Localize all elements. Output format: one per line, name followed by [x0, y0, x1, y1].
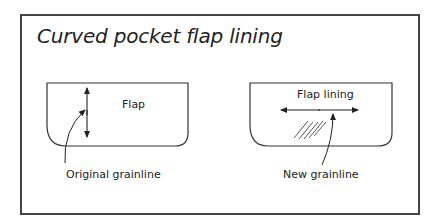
new-grainline-label: New grainline [283, 168, 359, 181]
flap-label: Flap [122, 98, 145, 111]
new-grainline-callout-line [322, 114, 333, 165]
pattern-drawing [0, 0, 438, 223]
original-grainline-callout-line [65, 110, 85, 163]
bias-hatch-icon [294, 121, 326, 139]
original-grainline-label: Original grainline [66, 168, 161, 181]
flap-lining-label: Flap lining [297, 88, 354, 101]
